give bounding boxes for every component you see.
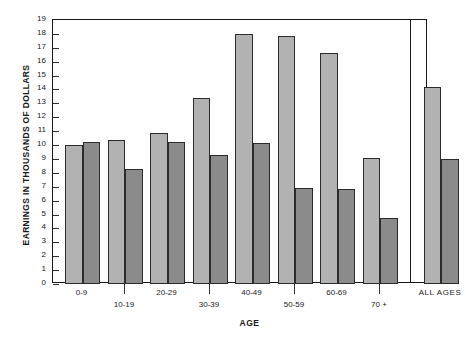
- bar-30-39-light: [193, 98, 211, 284]
- y-axis-tick: [53, 270, 59, 271]
- x-axis-tick-label: 20-29: [156, 288, 176, 297]
- y-axis-tick-label: 2: [32, 251, 46, 259]
- x-axis-tick-label: ALL AGES: [419, 288, 462, 297]
- y-axis-tick-label: 0: [32, 279, 46, 287]
- plot-area: [52, 19, 427, 283]
- x-axis-tick-label: 30-39: [199, 300, 219, 309]
- y-axis-tick-label: 9: [32, 154, 46, 162]
- y-axis-tick: [53, 284, 59, 285]
- y-axis-tick-label: 14: [32, 84, 46, 92]
- y-axis-tick-label: 3: [32, 237, 46, 245]
- y-axis-tick-label: 19: [32, 15, 46, 23]
- y-axis-tick: [53, 34, 59, 35]
- y-axis-tick: [53, 62, 59, 63]
- group-separator-line: [410, 20, 411, 282]
- y-axis-tick-label: 15: [32, 71, 46, 79]
- bar-10-19-light: [108, 140, 126, 284]
- bar-30-39-dark: [210, 155, 228, 284]
- bar-allages-dark: [441, 159, 459, 284]
- x-axis-tick-label: 40-49: [241, 288, 261, 297]
- y-axis-tick: [53, 215, 59, 216]
- y-axis-tick-label: 4: [32, 223, 46, 231]
- bar-allages-light: [424, 87, 442, 284]
- x-axis-tick-label: 70 +: [371, 300, 387, 309]
- x-axis-tick: [209, 283, 210, 294]
- y-axis-tick: [53, 103, 59, 104]
- y-axis-tick: [53, 256, 59, 257]
- x-axis-title: AGE: [31, 318, 466, 328]
- y-axis-tick: [53, 131, 59, 132]
- bar-40-49-light: [235, 34, 253, 284]
- bar-50-59-light: [278, 36, 296, 284]
- y-axis-tick: [53, 145, 59, 146]
- plot-inner: [53, 20, 426, 282]
- y-axis-tick: [53, 173, 59, 174]
- bar-20-29-light: [150, 133, 168, 284]
- y-axis-tick-label: 8: [32, 168, 46, 176]
- y-axis-tick-label: 7: [32, 182, 46, 190]
- y-axis-tick: [53, 89, 59, 90]
- y-axis-tick-label: 10: [32, 140, 46, 148]
- y-axis-tick-label: 6: [32, 196, 46, 204]
- y-axis-tick: [53, 201, 59, 202]
- x-axis-tick: [124, 283, 125, 294]
- y-axis-tick: [53, 76, 59, 77]
- y-axis-tick-label: 13: [32, 98, 46, 106]
- bar-0-9-light: [65, 145, 83, 284]
- bar-50-59-dark: [295, 188, 313, 284]
- bar-10-19-dark: [125, 169, 143, 284]
- bar-0-9-dark: [83, 142, 101, 284]
- x-axis-tick-label: 0-9: [76, 288, 88, 297]
- y-axis-tick-label: 12: [32, 112, 46, 120]
- x-axis-tick: [379, 283, 380, 294]
- y-axis-tick: [53, 242, 59, 243]
- y-axis-title: EARNINGS IN THOUSANDS OF DOLLARS: [21, 25, 31, 285]
- x-axis-tick-label: 10-19: [114, 300, 134, 309]
- y-axis-tick: [53, 48, 59, 49]
- y-axis-tick-label: 11: [32, 126, 46, 134]
- y-axis-tick-label: 17: [32, 43, 46, 51]
- bar-60-69-light: [320, 53, 338, 284]
- y-axis-tick-label: 16: [32, 57, 46, 65]
- y-axis-tick: [53, 117, 59, 118]
- x-axis-tick: [294, 283, 295, 294]
- bar-70-light: [363, 158, 381, 284]
- x-axis-tick-label: 60-69: [326, 288, 346, 297]
- y-axis-tick: [53, 187, 59, 188]
- y-axis-tick-label: 1: [32, 265, 46, 273]
- bar-70-dark: [380, 218, 398, 284]
- bar-60-69-dark: [338, 189, 356, 284]
- bar-20-29-dark: [168, 142, 186, 284]
- bar-40-49-dark: [253, 143, 271, 284]
- y-axis-tick-label: 5: [32, 210, 46, 218]
- y-axis-tick: [53, 159, 59, 160]
- y-axis-tick-label: 18: [32, 29, 46, 37]
- y-axis-tick: [53, 228, 59, 229]
- x-axis-tick-label: 50-59: [284, 300, 304, 309]
